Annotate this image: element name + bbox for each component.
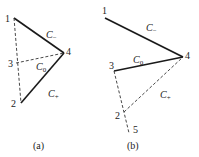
edge-3-5-dashed <box>114 71 129 133</box>
diagram-svg: 1 4 3 2 C− C0 C+ (a) 1 4 3 2 5 C− C0 C+ … <box>0 0 199 157</box>
edge-1-2-dashed <box>14 18 21 103</box>
point-label-4: 4 <box>185 50 190 61</box>
point-label-1: 1 <box>102 5 107 16</box>
figure: 1 4 3 2 C− C0 C+ (a) 1 4 3 2 5 C− C0 C+ … <box>0 0 199 157</box>
edge-2-4-dashed <box>124 57 183 112</box>
curve-label-c-minus: C− <box>46 29 57 42</box>
point-label-3: 3 <box>8 58 13 69</box>
caption-a: (a) <box>33 140 44 152</box>
point-label-3: 3 <box>109 60 114 71</box>
edge-1-4-solid <box>105 18 183 57</box>
edge-3-4-solid <box>114 57 183 71</box>
point-label-2: 2 <box>11 98 16 109</box>
point-label-5: 5 <box>133 124 138 135</box>
curve-label-c-plus: C+ <box>160 89 171 102</box>
curve-label-c-plus: C+ <box>48 88 59 101</box>
point-label-1: 1 <box>5 13 10 24</box>
caption-b: (b) <box>127 140 139 152</box>
diagram-b: 1 4 3 2 5 C− C0 C+ (b) <box>102 5 190 152</box>
diagram-a: 1 4 3 2 C− C0 C+ (a) <box>5 13 71 152</box>
curve-label-c-zero: C0 <box>133 54 144 67</box>
curve-label-c-zero: C0 <box>36 61 47 74</box>
point-label-4: 4 <box>66 46 71 57</box>
curve-label-c-minus: C− <box>146 22 157 35</box>
point-label-2: 2 <box>115 110 120 121</box>
